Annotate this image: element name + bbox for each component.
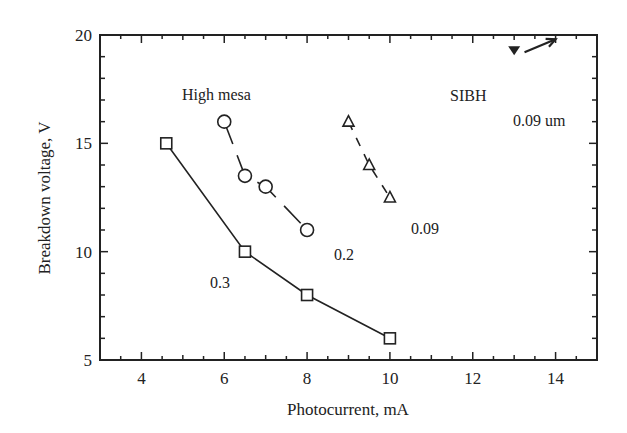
annotation-0-09: 0.09 (411, 220, 439, 237)
circle-marker (259, 180, 272, 193)
series-0 (161, 138, 396, 344)
x-tick-label: 10 (381, 369, 398, 388)
triangle-marker (384, 192, 395, 203)
triangle-marker (364, 159, 375, 170)
y-tick-label: 20 (75, 26, 92, 45)
series-line (224, 122, 307, 230)
x-tick-label: 12 (464, 369, 481, 388)
x-axis-title: Photocurrent, mA (287, 400, 410, 419)
filled-triangle-marker (508, 46, 520, 55)
annotation-sibh-thickness: 0.09 um (513, 112, 566, 129)
annotation-0-3: 0.3 (210, 274, 230, 291)
x-tick-label: 8 (303, 369, 312, 388)
circle-marker (238, 169, 251, 182)
series-line (166, 143, 390, 338)
breakdown-voltage-chart: 4681012145101520 High mesa SIBH 0.09 um … (0, 0, 627, 433)
circle-marker (218, 115, 231, 128)
x-tick-label: 4 (137, 369, 146, 388)
square-marker (384, 333, 395, 344)
y-axis-title: Breakdown voltage, V (35, 121, 54, 275)
y-tick-label: 15 (75, 134, 92, 153)
plot-axes: 4681012145101520 (75, 26, 597, 388)
square-marker (161, 138, 172, 149)
circle-marker (301, 224, 314, 237)
annotation-high-mesa: High mesa (182, 86, 251, 104)
x-tick-label: 14 (547, 369, 565, 388)
series-1 (218, 115, 314, 236)
plot-frame (100, 35, 597, 360)
y-tick-label: 5 (84, 351, 93, 370)
annotation-sibh: SIBH (450, 87, 487, 104)
square-marker (239, 246, 250, 257)
y-tick-label: 10 (75, 243, 92, 262)
x-tick-label: 6 (220, 369, 229, 388)
series-3 (508, 46, 520, 55)
triangle-marker (343, 116, 354, 127)
annotation-0-2: 0.2 (334, 246, 354, 263)
series-2 (343, 116, 395, 202)
square-marker (302, 290, 313, 301)
